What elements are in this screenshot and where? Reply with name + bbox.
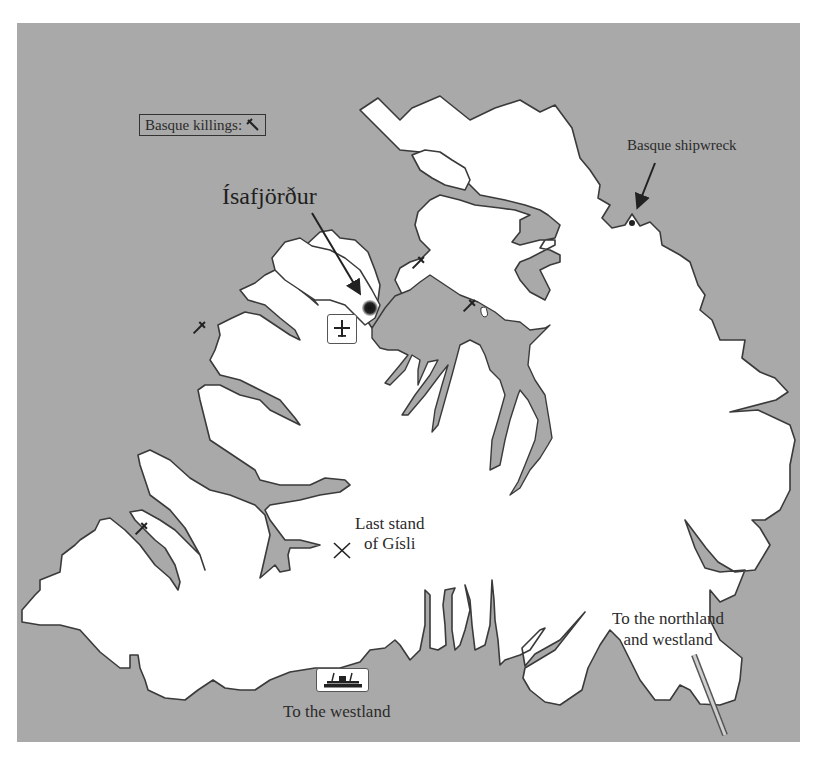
town-marker	[362, 300, 378, 316]
shipwreck-arrow	[638, 163, 655, 206]
legend-label: Basque killings:	[145, 117, 242, 134]
dagger-icon	[246, 118, 260, 132]
ferry-marker	[316, 668, 369, 692]
shipwreck-marker	[629, 220, 635, 226]
gisli-label-line2: of Gísli	[355, 534, 424, 554]
road-label-line1: To the northland	[612, 608, 724, 629]
ferry-icon	[321, 671, 365, 689]
shipwreck-label: Basque shipwreck	[627, 137, 737, 154]
road-label-line2: and westland	[612, 629, 724, 650]
town-label: Ísafjörður	[222, 183, 317, 210]
airport-marker	[327, 314, 357, 344]
gisli-label: Last stand of Gísli	[355, 514, 424, 554]
airplane-icon	[331, 318, 353, 340]
legend: Basque killings:	[139, 114, 266, 136]
road-label: To the northland and westland	[612, 608, 724, 650]
dagger-icon	[191, 319, 208, 336]
ferry-label: To the westland	[283, 702, 390, 722]
gisli-label-line1: Last stand	[355, 514, 424, 534]
map-canvas	[0, 0, 819, 765]
